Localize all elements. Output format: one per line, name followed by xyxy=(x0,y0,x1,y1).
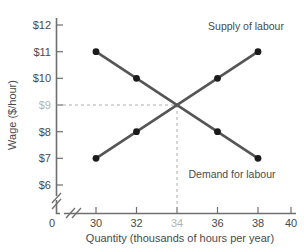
y-tick-9: $9 xyxy=(39,99,51,111)
x-tick-32: 32 xyxy=(130,217,142,229)
demand-curve-label: Demand for labour xyxy=(189,168,276,180)
supply-point-32 xyxy=(133,128,140,135)
x-tick-34: 34 xyxy=(171,217,183,229)
y-axis-title: Wage ($/hour) xyxy=(6,80,18,150)
x-tick-38: 38 xyxy=(252,217,264,229)
y-tick-12: $12 xyxy=(33,19,51,31)
x-tick-36: 36 xyxy=(211,217,223,229)
supply-point-36 xyxy=(214,75,221,82)
y-tick-7: $7 xyxy=(39,152,51,164)
demand-point-30 xyxy=(93,48,100,55)
demand-point-38 xyxy=(255,155,262,162)
demand-point-32 xyxy=(133,75,140,82)
x-tick-marks xyxy=(96,207,291,214)
x-tick-30: 30 xyxy=(90,217,102,229)
chart-canvas: $12 $11 $10 $9 $8 $7 $6 0 30 32 34 36 38… xyxy=(0,0,304,252)
y-tick-6: $6 xyxy=(39,179,51,191)
y-tick-labels: $12 $11 $10 $9 $8 $7 $6 xyxy=(33,19,51,191)
x-tick-origin: 0 xyxy=(49,217,55,229)
x-tick-40: 40 xyxy=(285,217,297,229)
axes-group xyxy=(57,18,297,214)
labour-market-chart: $12 $11 $10 $9 $8 $7 $6 0 30 32 34 36 38… xyxy=(0,0,304,252)
y-tick-11: $11 xyxy=(33,46,51,58)
supply-point-30 xyxy=(93,155,100,162)
equilibrium-guides xyxy=(57,105,177,213)
x-tick-labels: 0 30 32 34 36 38 40 xyxy=(49,217,297,229)
x-axis-title: Quantity (thousands of hours per year) xyxy=(86,232,274,244)
supply-point-38 xyxy=(255,48,262,55)
y-tick-10: $10 xyxy=(33,72,51,84)
demand-point-36 xyxy=(214,128,221,135)
y-tick-8: $8 xyxy=(39,126,51,138)
supply-curve-label: Supply of labour xyxy=(208,20,284,32)
